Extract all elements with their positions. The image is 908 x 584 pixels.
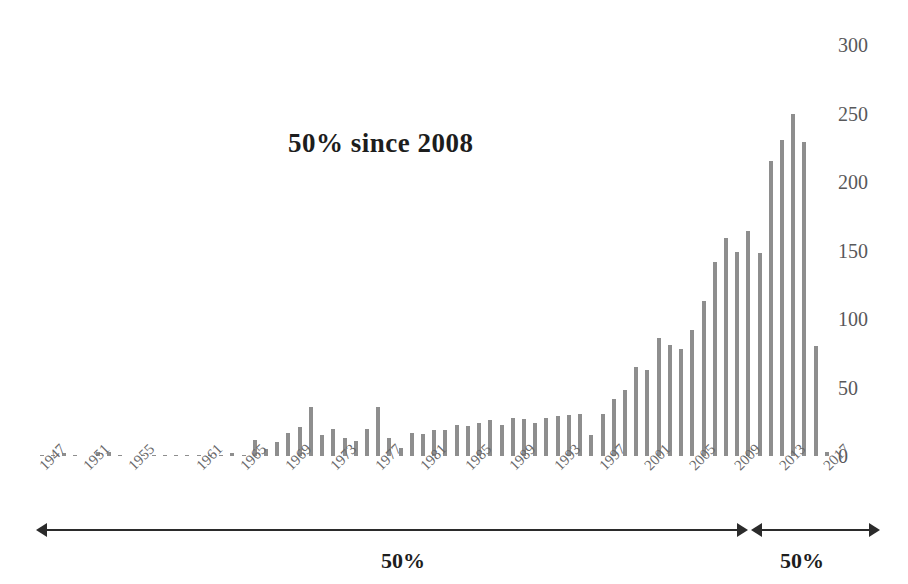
bar-slot (732, 45, 743, 456)
bar (320, 435, 324, 456)
bar-slot (350, 45, 361, 456)
bar-slot (272, 45, 283, 456)
y-axis: 300250200150100500 (838, 0, 908, 584)
bar-slot (204, 45, 215, 456)
bar-slot (653, 45, 664, 456)
bar-slot (496, 45, 507, 456)
bar (769, 161, 773, 456)
bar-slot (462, 45, 473, 456)
bar-chart-figure: 50% since 2008 300250200150100500 194719… (0, 0, 908, 584)
bar (679, 349, 683, 456)
bar-slot (709, 45, 720, 456)
y-axis-tick-label: 50 (838, 378, 892, 398)
bar-slot (395, 45, 406, 456)
bar-slot (664, 45, 675, 456)
bar-slot (541, 45, 552, 456)
bar-slot (238, 45, 249, 456)
left-arrow-head-end-icon (737, 523, 748, 537)
bar-slot (608, 45, 619, 456)
bar-slot (328, 45, 339, 456)
bar-slot (182, 45, 193, 456)
bar-slot (743, 45, 754, 456)
bar-slot (384, 45, 395, 456)
bar (735, 252, 739, 456)
bar (713, 262, 717, 457)
left-span-label: 50% (381, 548, 425, 574)
y-axis-tick-label: 250 (838, 104, 892, 124)
bar-slot (339, 45, 350, 456)
bar (511, 418, 515, 456)
bar-slot (788, 45, 799, 456)
bar (455, 425, 459, 457)
bar (668, 345, 672, 456)
bar-slot (260, 45, 271, 456)
bar-slot (530, 45, 541, 456)
bar-slot (765, 45, 776, 456)
bar-slot (417, 45, 428, 456)
bar-slot (720, 45, 731, 456)
bar (331, 429, 335, 456)
bar (601, 414, 605, 457)
bar (802, 142, 806, 456)
bar-slot (81, 45, 92, 456)
bar-slot (474, 45, 485, 456)
bar-slot (305, 45, 316, 456)
bar-slot (316, 45, 327, 456)
bar-slot (776, 45, 787, 456)
bar-slot (575, 45, 586, 456)
bar (556, 416, 560, 456)
bar-slot (518, 45, 529, 456)
bar (780, 140, 784, 457)
bar (758, 253, 762, 456)
bar-slot (249, 45, 260, 456)
bar (376, 407, 380, 456)
bar-slot (619, 45, 630, 456)
x-axis: 1947195119551961196519691973197719811985… (36, 456, 832, 516)
right-arrow-head-end-icon (869, 523, 880, 537)
bar (702, 301, 706, 456)
bar (791, 114, 795, 457)
bar-slot (294, 45, 305, 456)
bar (623, 390, 627, 456)
bar-slot (440, 45, 451, 456)
bar-slot (227, 45, 238, 456)
bar (410, 433, 414, 456)
plot-area (36, 45, 832, 456)
bar-slot (586, 45, 597, 456)
bar (589, 435, 593, 456)
bar-series (36, 45, 832, 456)
bar-slot (810, 45, 821, 456)
right-span-label: 50% (780, 548, 824, 574)
bar-slot (631, 45, 642, 456)
bar (466, 426, 470, 456)
bar-slot (507, 45, 518, 456)
bar-slot (70, 45, 81, 456)
bar-slot (193, 45, 204, 456)
bar-slot (171, 45, 182, 456)
bar-slot (642, 45, 653, 456)
bar (657, 338, 661, 456)
bar-slot (115, 45, 126, 456)
bar-slot (754, 45, 765, 456)
bar (746, 231, 750, 456)
y-axis-tick-label: 150 (838, 241, 892, 261)
bar-slot (698, 45, 709, 456)
y-axis-tick-label: 200 (838, 172, 892, 192)
bar (645, 370, 649, 456)
bar-slot (687, 45, 698, 456)
bar-slot (485, 45, 496, 456)
bar-slot (361, 45, 372, 456)
bar-slot (216, 45, 227, 456)
bar-slot (126, 45, 137, 456)
cropped-caption (8, 573, 528, 584)
bar-slot (429, 45, 440, 456)
bar-slot (552, 45, 563, 456)
bar-slot (159, 45, 170, 456)
bar (275, 442, 279, 456)
y-axis-tick-label: 100 (838, 309, 892, 329)
bar-slot (137, 45, 148, 456)
bar (365, 429, 369, 456)
bar-slot (821, 45, 832, 456)
bar-slot (283, 45, 294, 456)
bar (724, 238, 728, 456)
